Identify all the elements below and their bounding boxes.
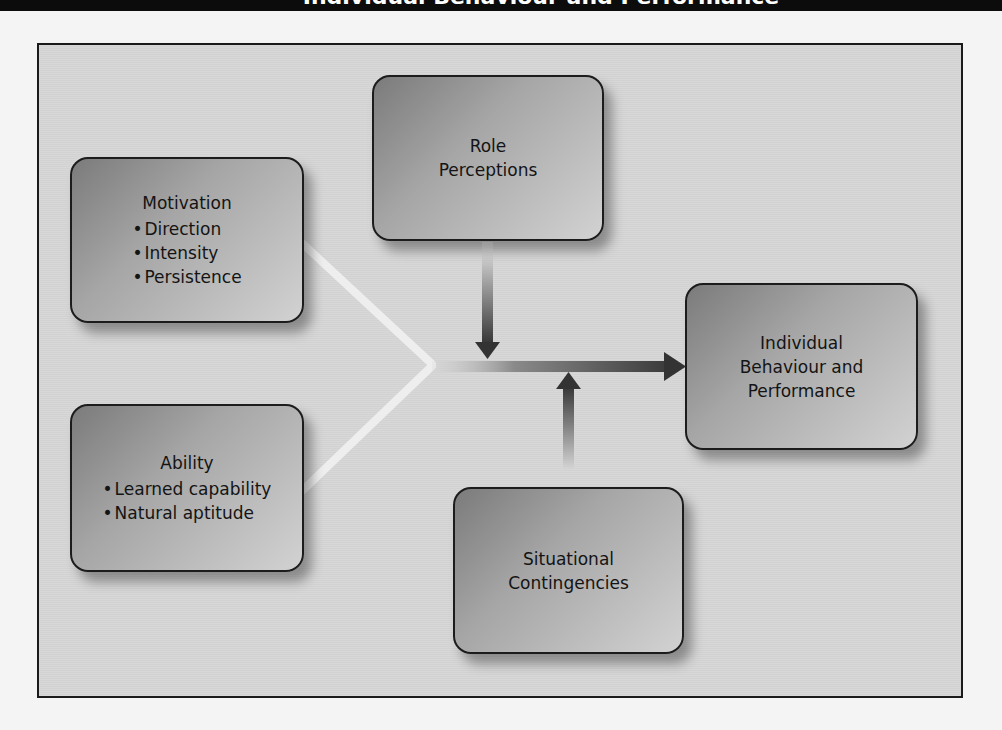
list-item: •Persistence <box>132 265 241 289</box>
role-perceptions-line-1: Role <box>470 134 507 158</box>
list-item: •Direction <box>132 217 241 241</box>
role-perceptions-box: Role Perceptions <box>372 75 604 241</box>
role-perceptions-line-2: Perceptions <box>439 158 538 182</box>
bullet-icon: • <box>103 501 115 525</box>
page-title: Individual Behaviour and Performance <box>0 0 1002 8</box>
outcome-box: Individual Behaviour and Performance <box>685 283 918 450</box>
bullet-icon: • <box>103 477 115 501</box>
motivation-heading: Motivation <box>142 191 232 215</box>
situational-line-2: Contingencies <box>508 571 629 595</box>
list-item: •Intensity <box>132 241 241 265</box>
ability-heading: Ability <box>160 451 213 475</box>
ability-box: Ability •Learned capability •Natural apt… <box>70 404 304 572</box>
outcome-line-3: Performance <box>748 379 856 403</box>
situational-line-1: Situational <box>523 547 614 571</box>
ability-list: •Learned capability •Natural aptitude <box>103 477 272 525</box>
bullet-icon: • <box>132 241 144 265</box>
motivation-box: Motivation •Direction •Intensity •Persis… <box>70 157 304 323</box>
bullet-icon: • <box>132 265 144 289</box>
list-item: •Natural aptitude <box>103 501 272 525</box>
motivation-list: •Direction •Intensity •Persistence <box>132 217 241 289</box>
outcome-line-2: Behaviour and <box>740 355 864 379</box>
title-bar: Individual Behaviour and Performance <box>0 0 1002 11</box>
list-item: •Learned capability <box>103 477 272 501</box>
outcome-line-1: Individual <box>760 331 843 355</box>
situational-contingencies-box: Situational Contingencies <box>453 487 684 654</box>
bullet-icon: • <box>132 217 144 241</box>
